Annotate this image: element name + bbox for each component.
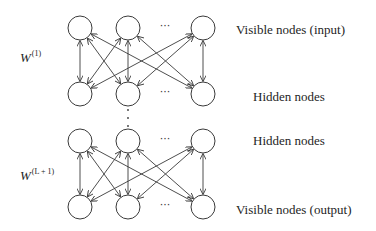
node-hidden-1-2 xyxy=(191,82,215,106)
weight-base: W xyxy=(20,168,31,183)
ellipsis-icon: ··· xyxy=(160,198,171,211)
vertical-dots-icon xyxy=(127,109,129,127)
weight-superscript: (L + 1) xyxy=(32,167,54,176)
layer-label-visible-input: Visible nodes (input) xyxy=(236,23,345,36)
node-visible-output-2 xyxy=(191,195,215,219)
layer-label-hidden-2: Hidden nodes xyxy=(253,134,325,147)
node-visible-input-0 xyxy=(68,16,92,40)
node-hidden-2-0 xyxy=(68,129,92,153)
vertical-dot xyxy=(127,125,129,127)
vertical-dot xyxy=(127,109,129,111)
node-hidden-1-1 xyxy=(116,82,140,106)
weight-base: W xyxy=(20,50,31,65)
vertical-dot xyxy=(127,117,129,119)
node-hidden-1-0 xyxy=(68,82,92,106)
node-visible-input-1 xyxy=(116,16,140,40)
node-visible-output-0 xyxy=(68,195,92,219)
weight-label-wL1: W(L + 1) xyxy=(20,168,54,182)
ellipsis-icon: ··· xyxy=(160,132,171,145)
weight-label-w1: W(1) xyxy=(20,50,41,64)
ellipsis-icon: ··· xyxy=(160,85,171,98)
node-hidden-2-1 xyxy=(116,129,140,153)
node-visible-input-2 xyxy=(191,16,215,40)
layer-label-hidden-1: Hidden nodes xyxy=(253,90,325,103)
edge-group xyxy=(80,34,203,201)
ellipsis-group: ············ xyxy=(160,19,171,211)
layer-label-visible-output: Visible nodes (output) xyxy=(236,203,351,216)
node-hidden-2-2 xyxy=(191,129,215,153)
weight-superscript: (1) xyxy=(32,49,41,58)
node-visible-output-1 xyxy=(116,195,140,219)
ellipsis-icon: ··· xyxy=(160,19,171,32)
node-group xyxy=(68,16,215,219)
